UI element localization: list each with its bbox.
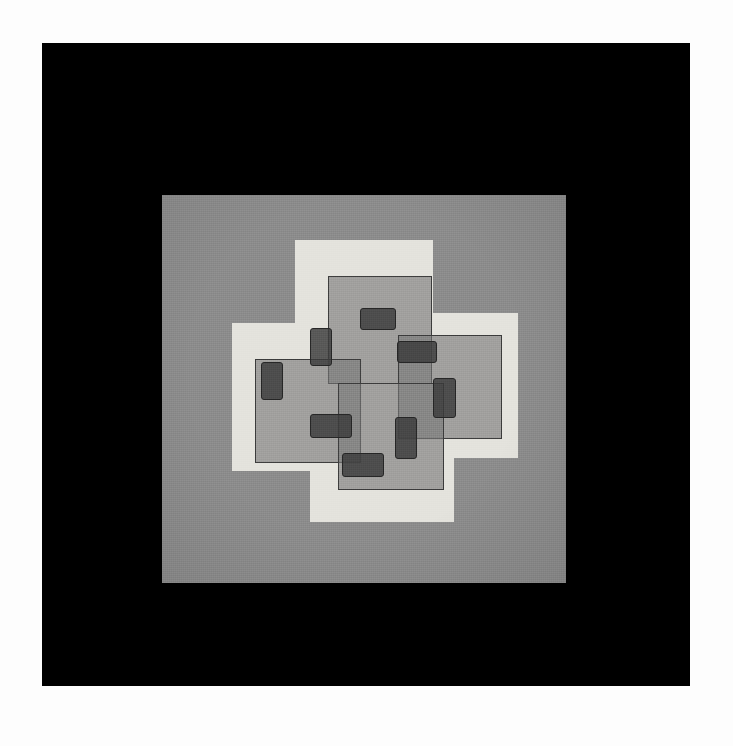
- dark-rect-right-mid: [433, 378, 456, 418]
- page-title: Geometric Pinwheel Composition: [0, 21, 1, 22]
- dark-rect-mid-left: [261, 362, 283, 400]
- gray-field-square: [162, 195, 566, 583]
- dark-rect-lower-mid: [395, 417, 417, 459]
- geometric-composition: [162, 195, 566, 583]
- dark-rect-upper-left: [310, 328, 332, 366]
- dark-rect-right-upper: [397, 341, 437, 363]
- dark-rect-top-wide: [360, 308, 396, 330]
- dark-rect-lower-left: [310, 414, 352, 438]
- artwork-canvas: Geometric Pinwheel Composition: [0, 0, 733, 746]
- dark-rect-bottom-wide: [342, 453, 384, 477]
- black-frame: [42, 43, 690, 686]
